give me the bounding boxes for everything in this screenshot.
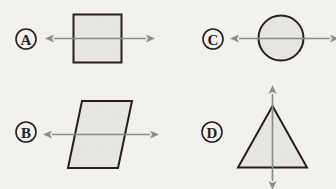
option-c-label-badge: C (203, 29, 223, 49)
option-c-group: C (203, 16, 330, 61)
option-a-label-badge: A (16, 29, 36, 49)
option-d-group: D (202, 94, 307, 181)
option-d-label-badge: D (202, 122, 222, 142)
option-a-label-text: A (21, 32, 32, 48)
option-b-group: B (16, 101, 150, 168)
multiple-choice-figure-panel: A B C D (0, 0, 336, 189)
option-b-label-text: B (21, 125, 31, 141)
shapes-diagram: A B C D (0, 0, 336, 189)
option-d-label-text: D (207, 125, 218, 141)
option-b-label-badge: B (16, 122, 36, 142)
option-a-group: A (16, 15, 146, 63)
option-c-label-text: C (208, 32, 219, 48)
